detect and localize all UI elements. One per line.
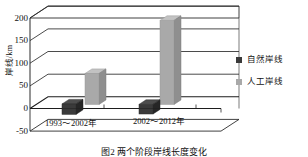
- bar-natural-1993-2002: [62, 99, 83, 114]
- y-tick-0: 0: [2, 104, 28, 113]
- legend-item-artificial: 人工岸线: [236, 74, 283, 89]
- figure-caption: 图2 两个阶段岸线长度变化: [0, 147, 308, 157]
- chart-legend: 自然岸线 人工岸线: [236, 52, 283, 96]
- y-axis-title: 岸线/km: [5, 39, 14, 83]
- legend-swatch-natural-icon: [236, 57, 242, 63]
- bar-artificial-1993-2002: [85, 69, 106, 105]
- bar-natural-2002-2012: [139, 100, 160, 114]
- coastline-bar-chart: 200 150 100 50 0 -50 岸线/km 1993～2002年 20…: [0, 0, 308, 157]
- category-label-1993-2002: 1993～2002年: [45, 119, 97, 128]
- y-tick-neg50: -50: [2, 127, 28, 136]
- legend-label-artificial: 人工岸线: [247, 77, 283, 86]
- chart-gridlines: [30, 6, 239, 109]
- legend-item-natural: 自然岸线: [236, 52, 283, 67]
- y-tick-50: 50: [2, 81, 28, 90]
- y-tick-200: 200: [2, 14, 28, 23]
- category-label-2002-2012: 2002～2012年: [133, 117, 185, 126]
- bar-artificial-2002-2012: [160, 16, 181, 105]
- chart-back-wall: [30, 6, 239, 109]
- legend-swatch-artificial-icon: [236, 79, 242, 85]
- legend-label-natural: 自然岸线: [247, 55, 283, 64]
